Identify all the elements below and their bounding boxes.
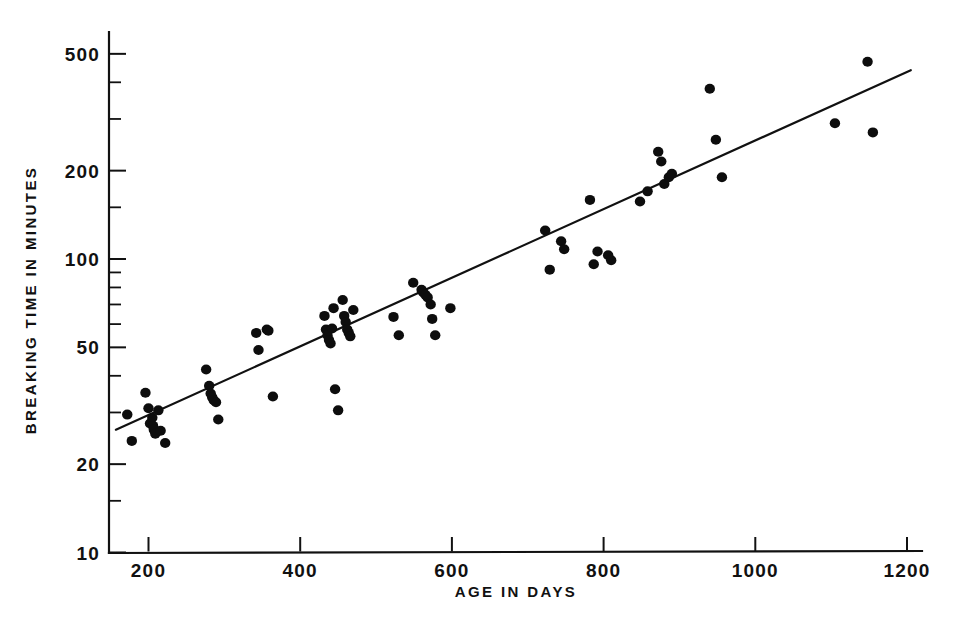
data-point xyxy=(868,127,878,137)
data-point xyxy=(717,172,727,182)
x-tick-label-200: 200 xyxy=(131,560,166,581)
data-point xyxy=(345,331,355,341)
x-tick-label-400: 400 xyxy=(283,560,318,581)
data-point xyxy=(319,311,329,321)
x-axis-line xyxy=(109,551,922,553)
data-point xyxy=(830,118,840,128)
x-tick-label-800: 800 xyxy=(586,560,621,581)
y-tick-label-100: 100 xyxy=(65,249,100,270)
data-point xyxy=(268,392,278,402)
data-point xyxy=(333,405,343,415)
data-point xyxy=(705,84,715,94)
y-tick-label-50: 50 xyxy=(76,337,100,358)
y-tick-label-500: 500 xyxy=(65,44,100,65)
data-point xyxy=(140,388,150,398)
data-point xyxy=(540,226,550,236)
y-tick-label-200: 200 xyxy=(65,161,100,182)
data-point xyxy=(213,414,223,424)
y-axis-title: BREAKING TIME IN MINUTES xyxy=(22,166,39,434)
data-point xyxy=(585,195,595,205)
data-point xyxy=(122,410,132,420)
x-tick-label-1000: 1000 xyxy=(732,560,779,581)
x-tick-group xyxy=(149,537,908,552)
data-point xyxy=(430,330,440,340)
data-point xyxy=(667,169,677,179)
data-point xyxy=(559,244,569,254)
y-minor-tick-group xyxy=(109,82,121,501)
data-point-group xyxy=(122,57,878,448)
data-point xyxy=(201,365,211,375)
data-point xyxy=(445,303,455,313)
data-point xyxy=(642,186,652,196)
plot-canvas: 102050100200500 20040060080010001200 AGE… xyxy=(0,0,965,631)
data-point xyxy=(155,426,165,436)
data-point xyxy=(251,328,261,338)
y-tick-label-10: 10 xyxy=(76,543,100,564)
data-point xyxy=(211,397,221,407)
data-point xyxy=(127,436,137,446)
data-point xyxy=(325,339,335,349)
scatter-plot-figure: 102050100200500 20040060080010001200 AGE… xyxy=(0,0,965,631)
data-point xyxy=(862,57,872,67)
data-point xyxy=(394,330,404,340)
data-point xyxy=(160,438,170,448)
y-tick-label-group: 102050100200500 xyxy=(65,44,100,564)
data-point xyxy=(253,345,263,355)
data-point xyxy=(327,323,337,333)
data-point xyxy=(388,312,398,322)
data-point xyxy=(153,405,163,415)
data-point xyxy=(606,255,616,265)
data-point xyxy=(711,135,721,145)
data-point xyxy=(656,156,666,166)
data-point xyxy=(408,278,418,288)
data-point xyxy=(330,384,340,394)
trend-line xyxy=(116,70,911,430)
axis-lines xyxy=(109,32,922,553)
y-tick-group xyxy=(109,54,126,553)
data-point xyxy=(348,305,358,315)
data-point xyxy=(635,197,645,207)
y-tick-label-20: 20 xyxy=(76,454,100,475)
data-point xyxy=(337,295,347,305)
data-point xyxy=(143,403,153,413)
data-point xyxy=(328,303,338,313)
data-point xyxy=(589,259,599,269)
data-point xyxy=(545,265,555,275)
data-point xyxy=(427,314,437,324)
data-point xyxy=(653,147,663,157)
data-point xyxy=(263,326,273,336)
x-axis-title: AGE IN DAYS xyxy=(455,583,578,600)
x-tick-label-group: 20040060080010001200 xyxy=(131,560,931,581)
x-tick-label-1200: 1200 xyxy=(883,560,930,581)
data-point xyxy=(425,299,435,309)
data-point xyxy=(592,247,602,257)
x-tick-label-600: 600 xyxy=(434,560,469,581)
